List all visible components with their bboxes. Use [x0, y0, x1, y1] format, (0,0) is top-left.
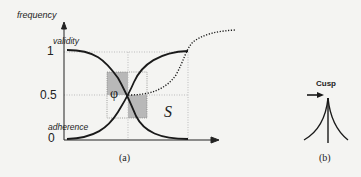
- adherence-label: adherence: [48, 123, 88, 132]
- y-tick-0: 0: [48, 132, 55, 144]
- y-tick-0-5: 0.5: [40, 89, 57, 101]
- y-axis-label: frequency: [17, 11, 57, 20]
- cusp-arrow-icon: [307, 92, 324, 98]
- y-tick-1: 1: [47, 45, 54, 57]
- caption-a: (a): [119, 153, 130, 163]
- validity-label: validity: [53, 37, 79, 46]
- s-label: S: [164, 104, 172, 120]
- y-axis-arrow-icon: [62, 22, 67, 29]
- phi-label: φ: [110, 87, 118, 101]
- caption-b: (b): [319, 153, 331, 163]
- s-dotted-curve: [128, 30, 235, 95]
- cusp-label: Cusp: [316, 80, 336, 88]
- x-axis-arrow-icon: [211, 137, 219, 143]
- cusp-diagram: [304, 98, 348, 143]
